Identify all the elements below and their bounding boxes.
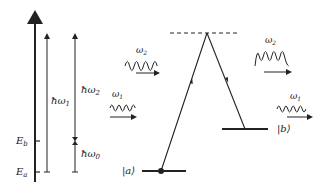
wave-squiggle-icon bbox=[255, 52, 289, 67]
hbar-omega1-label: ħω1 bbox=[51, 95, 70, 108]
wave-squiggle-icon bbox=[277, 106, 306, 112]
wave-label: ω1 bbox=[112, 89, 123, 100]
level-label-ea: Ea bbox=[15, 166, 28, 179]
raman-energy-diagram: Eb Ea ħω1 ħω2 ħω0 ω2 ω1 |a⟩ |b⟩ ω2 bbox=[0, 0, 334, 192]
emission-line bbox=[207, 33, 245, 129]
energy-axis: Eb Ea ħω1 ħω2 ħω0 bbox=[15, 17, 101, 182]
hbar-omega2-label: ħω2 bbox=[81, 84, 101, 97]
wave-squiggle-icon bbox=[110, 105, 135, 111]
wave-label: ω2 bbox=[136, 45, 147, 56]
incoming-wave-omega2: ω2 bbox=[125, 45, 157, 73]
excitation-line bbox=[161, 33, 207, 171]
outgoing-wave-omega2: ω2 bbox=[255, 35, 289, 72]
hbar-omega0-arrowhead-icon bbox=[72, 137, 78, 141]
wave-squiggle-icon bbox=[125, 62, 157, 71]
incoming-wave-omega1: ω1 bbox=[110, 89, 135, 117]
hbar-omega0-arrowhead-icon bbox=[72, 141, 78, 145]
state-b-label: |b⟩ bbox=[277, 123, 291, 135]
hbar-omega0-label: ħω0 bbox=[81, 148, 101, 161]
electron-dot-icon bbox=[158, 168, 164, 174]
wave-label: ω1 bbox=[290, 91, 301, 102]
outgoing-wave-omega1: ω1 bbox=[277, 91, 310, 117]
wave-label: ω2 bbox=[265, 35, 276, 46]
level-label-eb: Eb bbox=[15, 135, 28, 148]
state-a-label: |a⟩ bbox=[122, 165, 135, 177]
